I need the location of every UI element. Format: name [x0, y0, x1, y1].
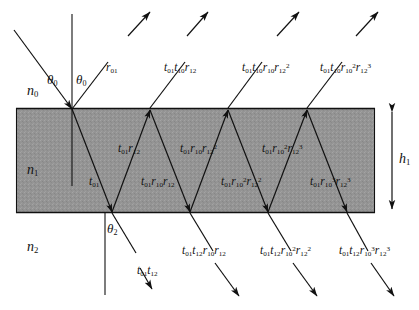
- refractive-index-n2: n2: [27, 240, 38, 255]
- reflected-ray-2: [228, 12, 299, 108]
- incident-ray: [14, 30, 72, 109]
- label-reflected-order-3: t01t10r102r123: [320, 62, 371, 75]
- refractive-index-n1: n1: [27, 163, 38, 178]
- label-transmitted-0: t01t12: [137, 265, 158, 278]
- label-film-lower-2: t01r10r12: [141, 176, 175, 189]
- reflected-ray-3: [307, 12, 378, 108]
- label-film-upper-1: t01r12: [118, 143, 140, 156]
- label-reflected-order-1: t01t10r12: [164, 62, 196, 75]
- reflected-ray-1: [150, 12, 208, 108]
- label-transmitted-3: t01t12r103r123: [339, 245, 390, 258]
- label-reflected-order-2: t01t10r10r122: [242, 62, 289, 75]
- label-film-lower-4: t01r103r123: [310, 176, 351, 189]
- reflected-ray-0: [72, 12, 150, 109]
- thin-film-interference-diagram: n0 n1 n2 θ0 θ0 θ2 h1 r01 t01t10r12 t01t1…: [0, 0, 419, 310]
- label-film-lower-1: t01: [89, 176, 99, 189]
- label-film-upper-3: t01r102r123: [262, 143, 303, 156]
- label-reflected-order-0: r01: [106, 62, 118, 75]
- label-transmitted-2: t01t12r102r122: [260, 245, 311, 258]
- label-transmitted-1: t01t12r10r12: [182, 245, 226, 258]
- film-thickness-h1: h1: [399, 152, 410, 167]
- angle-theta0-incident: θ0: [47, 73, 57, 88]
- label-film-upper-2: t01r10r122: [180, 143, 217, 156]
- label-film-lower-3: t01r102r122: [221, 176, 262, 189]
- angle-theta0-reflected: θ0: [76, 73, 86, 88]
- angle-theta2-transmitted: θ2: [107, 222, 117, 237]
- refractive-index-n0: n0: [27, 84, 38, 99]
